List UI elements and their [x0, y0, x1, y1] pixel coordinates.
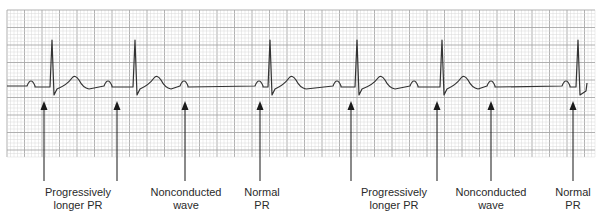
- label-progressively-longer-pr-1: Progressively longer PR: [18, 186, 138, 212]
- arrow-up-icon: [114, 101, 121, 181]
- label-normal-pr-2: Normal PR: [513, 186, 600, 212]
- ecg-grid-paper: [7, 10, 595, 157]
- annotation-arrows: [41, 101, 577, 181]
- arrow-up-icon: [182, 101, 189, 181]
- arrow-up-icon: [434, 101, 441, 181]
- label-normal-pr-1: Normal PR: [202, 186, 322, 212]
- ecg-strip: [0, 0, 600, 216]
